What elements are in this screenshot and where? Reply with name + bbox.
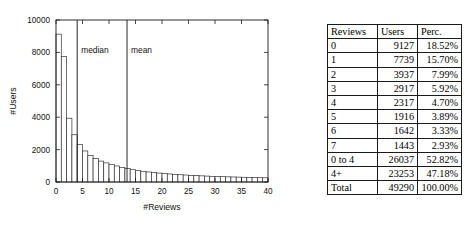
histogram-bar [167,174,172,182]
cell-perc: 5.92% [418,81,462,95]
cell-reviews: Total [328,181,378,195]
histogram-bar [194,176,199,182]
histogram-bar [231,177,236,182]
histogram-bar [183,175,188,182]
cell-reviews: 0 to 4 [328,152,378,166]
y-axis-title: #Users [8,87,18,114]
histogram-bar [93,159,98,182]
cell-perc: 7.99% [418,67,462,81]
histogram-bar [199,176,204,182]
x-tick-label: 5 [80,187,85,196]
table-row: 519163.89% [328,110,462,124]
histogram-bar [83,151,88,182]
cell-perc: 2.93% [418,138,462,152]
histogram-bar [257,178,262,182]
cell-users: 3937 [378,67,418,81]
histogram-bar [114,166,119,182]
cell-users: 2917 [378,81,418,95]
table-row: Total49290100.00% [328,181,462,195]
histogram-bar [263,178,268,182]
table-body: 0912718.52%1773915.70%239377.99%329175.9… [328,39,462,195]
table-row: 0912718.52% [328,39,462,53]
histogram-bar [104,163,109,182]
cell-users: 1916 [378,110,418,124]
histogram-bar [141,171,146,182]
bars-group [56,34,268,182]
table-header: Reviews Users Perc. [328,25,462,39]
x-tick-label: 0 [54,187,59,196]
cell-reviews: 5 [328,110,378,124]
cell-perc: 15.70% [418,53,462,67]
column-header-users: Users [378,25,418,39]
histogram-bar [56,34,61,182]
histogram-bar [77,144,82,182]
x-tick-label: 30 [210,187,220,196]
cell-users: 26037 [378,152,418,166]
histogram-bar [252,178,257,182]
x-tick-label: 20 [157,187,167,196]
table-row: 329175.92% [328,81,462,95]
histogram-bar [130,170,135,182]
cell-users: 23253 [378,167,418,181]
histogram-bar [98,161,103,182]
x-tick-label: 25 [184,187,194,196]
y-tick-label: 0 [45,178,50,187]
cell-reviews: 6 [328,124,378,138]
x-axis-title: #Reviews [143,202,180,212]
cell-users: 49290 [378,181,418,195]
column-header-reviews: Reviews [328,25,378,39]
cell-users: 7739 [378,53,418,67]
cell-reviews: 0 [328,39,378,53]
y-tick-label: 6000 [32,81,51,90]
histogram-bar [236,177,241,182]
cell-perc: 18.52% [418,39,462,53]
median-label: median [81,45,109,55]
histogram-bar [162,174,167,182]
cell-reviews: 4+ [328,167,378,181]
histogram-bar [146,172,151,182]
table-row: 239377.99% [328,67,462,81]
histogram-bar [157,173,162,182]
statistics-table: Reviews Users Perc. 0912718.52%1773915.7… [327,24,462,195]
cell-users: 1642 [378,124,418,138]
table-row: 714432.93% [328,138,462,152]
histogram-bar [215,176,220,182]
y-tick-label: 2000 [32,146,51,155]
cell-perc: 3.33% [418,124,462,138]
mean-label: mean [131,45,152,55]
histogram-bar [88,155,93,182]
cell-users: 2317 [378,96,418,110]
histogram-bar [109,165,114,183]
cell-reviews: 7 [328,138,378,152]
statistics-table-container: Reviews Users Perc. 0912718.52%1773915.7… [327,24,461,195]
table-row: 0 to 42603752.82% [328,152,462,166]
table-row: 423174.70% [328,96,462,110]
table-row: 4+2325347.18% [328,167,462,181]
histogram-bar [72,135,77,182]
cell-perc: 52.82% [418,152,462,166]
y-tick-label: 10000 [27,16,50,25]
table-header-row: Reviews Users Perc. [328,25,462,39]
histogram-bar [61,57,66,182]
table-row: 1773915.70% [328,53,462,67]
x-tick-label: 10 [104,187,114,196]
x-tick-label: 40 [263,187,273,196]
column-header-perc: Perc. [418,25,462,39]
histogram-bar [136,171,141,182]
cell-perc: 4.70% [418,96,462,110]
cell-users: 9127 [378,39,418,53]
cell-reviews: 3 [328,81,378,95]
y-tick-label: 4000 [32,113,51,122]
histogram-bar [204,176,209,182]
histogram-bar [151,173,156,182]
histogram-bar [210,176,215,182]
cell-perc: 100.00% [418,181,462,195]
x-tick-label: 35 [237,187,247,196]
cell-perc: 3.89% [418,110,462,124]
histogram-bar [67,118,72,182]
histogram-bar [178,175,183,182]
cell-reviews: 2 [328,67,378,81]
histogram-bar [125,169,130,182]
x-tick-label: 15 [131,187,141,196]
histogram-bar [242,177,247,182]
